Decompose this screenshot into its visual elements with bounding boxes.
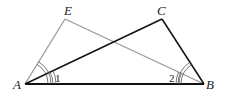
angle-arcs-B — [176, 62, 192, 84]
triangle-diagram: E C A B 1 2 — [0, 0, 225, 96]
angle-label-2: 2 — [169, 72, 175, 84]
label-B: B — [206, 77, 214, 92]
label-E: E — [63, 3, 72, 18]
label-A: A — [12, 77, 21, 92]
angle-label-1: 1 — [55, 72, 61, 84]
angle-arcs-A — [37, 62, 56, 84]
label-C: C — [157, 3, 166, 18]
